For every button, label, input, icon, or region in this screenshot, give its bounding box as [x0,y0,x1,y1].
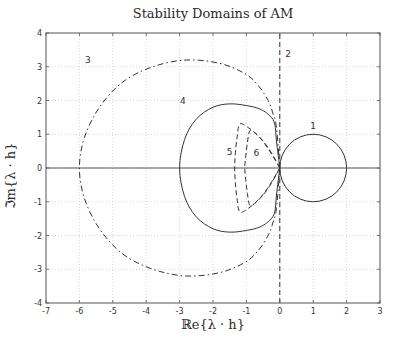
x-tick-label: 2 [344,307,349,316]
chart-title: Stability Domains of AM [46,6,380,21]
curve-label-4: 4 [180,96,186,106]
x-tick-label: -7 [42,307,50,316]
stability-chart: -7-6-5-4-3-2-10123-4-3-2-101234 123456 [0,0,394,349]
axis-ticks: -7-6-5-4-3-2-10123-4-3-2-101234 [34,29,383,316]
x-tick-label: 1 [311,307,316,316]
x-axis-label: ℝe{λ · h} [46,317,380,332]
x-tick-label: 3 [377,307,382,316]
curve-label-3: 3 [85,55,91,65]
x-tick-label: -5 [109,307,117,316]
x-tick-label: -1 [242,307,250,316]
curve-label-2: 2 [285,49,291,59]
curve-label-5: 5 [227,147,233,157]
y-tick-label: -3 [34,265,42,274]
stability-curves [46,33,380,303]
curve-label-1: 1 [310,121,316,131]
curve-labels: 123456 [85,49,316,159]
y-tick-label: 0 [37,164,42,173]
x-tick-label: -2 [209,307,217,316]
y-tick-label: -2 [34,232,42,241]
x-tick-label: -6 [75,307,83,316]
y-tick-label: 3 [37,63,42,72]
y-tick-label: 1 [37,130,42,139]
y-tick-label: -1 [34,198,42,207]
y-tick-label: 2 [37,97,42,106]
y-axis-label: ℑm{λ · h} [3,116,19,236]
curve-label-6: 6 [254,148,260,158]
x-tick-label: -4 [142,307,150,316]
x-tick-label: 0 [277,307,282,316]
x-tick-label: -3 [176,307,184,316]
y-tick-label: 4 [37,29,42,38]
y-tick-label: -4 [34,299,42,308]
